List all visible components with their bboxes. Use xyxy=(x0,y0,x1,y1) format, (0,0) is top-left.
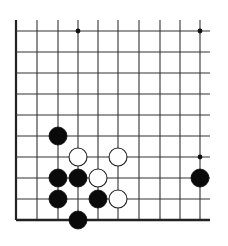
black-stone xyxy=(191,169,209,187)
black-stone xyxy=(69,211,87,229)
grid-lines xyxy=(16,20,210,220)
star-point-icon xyxy=(76,29,81,34)
white-stone xyxy=(89,169,107,187)
black-stone xyxy=(49,169,67,187)
white-stone xyxy=(109,190,127,208)
star-point-icon xyxy=(198,29,203,34)
star-point-icon xyxy=(198,155,203,160)
black-stone xyxy=(49,190,67,208)
black-stone xyxy=(69,169,87,187)
white-stone xyxy=(109,148,127,166)
black-stone xyxy=(49,127,67,145)
black-stone xyxy=(89,190,107,208)
go-board-grid xyxy=(0,0,228,246)
white-stone xyxy=(69,148,87,166)
go-board xyxy=(0,0,228,246)
